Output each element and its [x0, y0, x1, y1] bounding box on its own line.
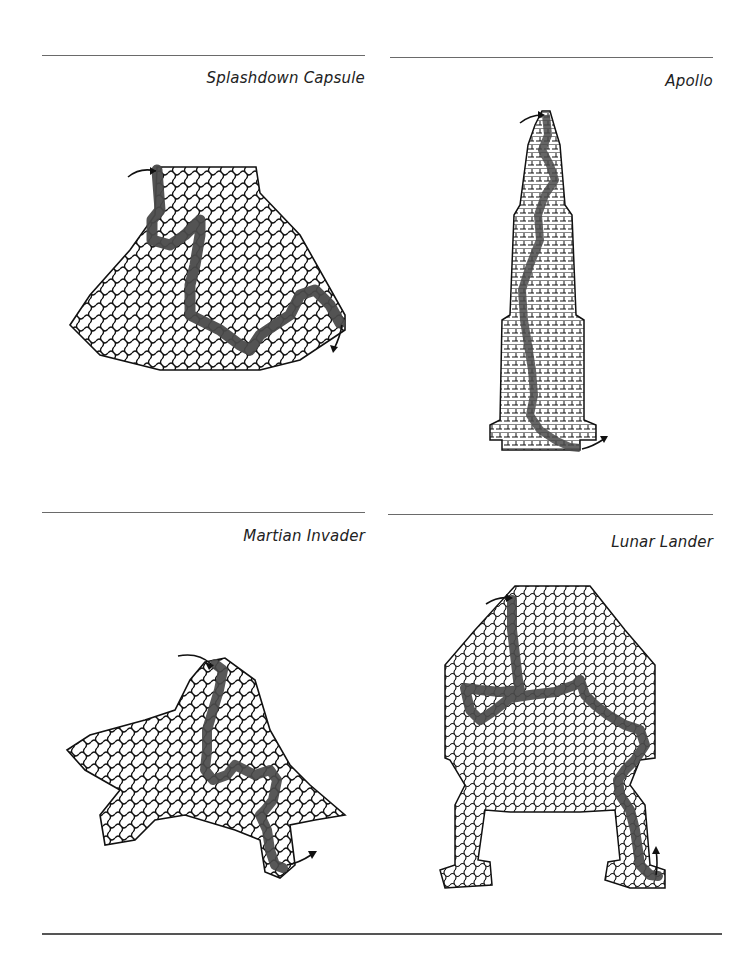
- maze-apollo: [480, 105, 620, 460]
- maze-title-splashdown: Splashdown Capsule: [150, 69, 365, 87]
- divider-mid-left: [42, 512, 365, 513]
- maze-title-apollo: Apollo: [500, 72, 713, 90]
- maze-title-martian: Martian Invader: [150, 527, 365, 545]
- divider-bottom: [42, 933, 722, 935]
- maze-title-lunar: Lunar Lander: [500, 533, 713, 551]
- divider-mid-right: [388, 514, 713, 515]
- divider-top-right: [390, 57, 713, 58]
- divider-top-left: [42, 55, 365, 56]
- maze-splashdown-capsule: [60, 155, 360, 385]
- maze-lunar-lander: [430, 580, 670, 900]
- maze-martian-invader: [55, 640, 365, 890]
